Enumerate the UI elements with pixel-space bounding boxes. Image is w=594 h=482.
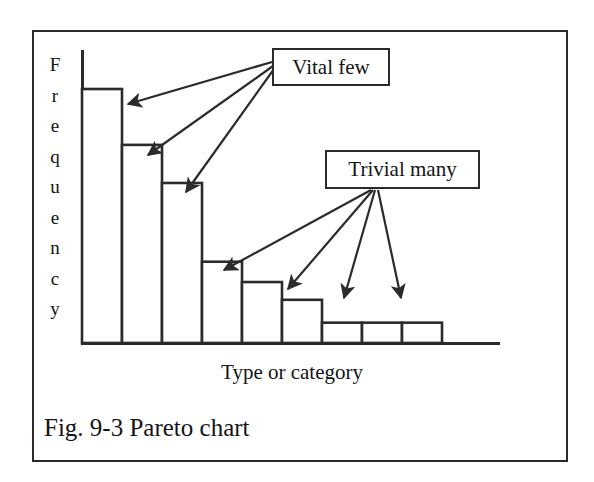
bar [402,323,442,343]
bar [362,323,402,343]
figure-caption: Fig. 9-3 Pareto chart [44,414,250,442]
bars-group [82,89,442,343]
arrow-to-bar-8 [378,190,401,298]
bar [122,145,162,343]
bar [322,323,362,343]
bar [82,89,122,343]
bar [282,300,322,343]
annotation-vital-few: Vital few [272,48,390,86]
pareto-chart-figure: F r e q u e n c y [0,0,594,482]
annotation-trivial-many: Trivial many [325,150,480,189]
annotation-label: Trivial many [348,157,456,182]
arrow-to-bar-4 [224,190,371,270]
x-axis-label: Type or category [82,360,502,385]
bar [242,282,282,343]
annotation-label: Vital few [292,55,369,80]
bar [202,262,242,343]
bar [162,183,202,343]
arrow-to-bar-3 [186,69,274,192]
